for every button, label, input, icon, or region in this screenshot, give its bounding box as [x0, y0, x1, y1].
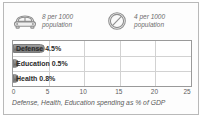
x-tick-label: 0 [12, 88, 16, 95]
x-tick-label: 20 [151, 88, 158, 95]
bar-row: Education 0.5% [13, 56, 191, 71]
stat-item-phones: 4 per 1000 population [103, 9, 198, 33]
bar-row: Health 0.8% [13, 71, 191, 86]
x-tick-label: 5 [46, 88, 50, 95]
phone-circle-icon [104, 9, 130, 33]
bar-label-education: Education 0.5% [16, 60, 68, 67]
chart-bars: Defense 4.5%Education 0.5%Health 0.8% [13, 41, 191, 86]
chart-caption: Defense, Health, Education spending as %… [12, 99, 198, 106]
stat-legend: 8 per 1000 population 4 per 1000 populat… [4, 3, 198, 39]
bar-label-health: Health 0.8% [16, 75, 55, 82]
x-tick-label: 10 [80, 88, 87, 95]
x-tick-label: 15 [115, 88, 122, 95]
stat-item-cars-label: 8 per 1000 population [42, 13, 73, 29]
x-axis-ticks: 0510152025 [12, 88, 192, 97]
stat-item-phones-label: 4 per 1000 population [134, 13, 165, 29]
infographic-card: 8 per 1000 population 4 per 1000 populat… [3, 2, 199, 115]
bar-chart-plot: Defense 4.5%Education 0.5%Health 0.8% [12, 40, 192, 87]
car-icon [12, 9, 38, 33]
stat-item-cars: 8 per 1000 population [4, 9, 103, 33]
bar-row: Defense 4.5% [13, 41, 191, 56]
x-tick-label: 25 [183, 88, 190, 95]
bar-label-defense: Defense 4.5% [16, 45, 61, 52]
